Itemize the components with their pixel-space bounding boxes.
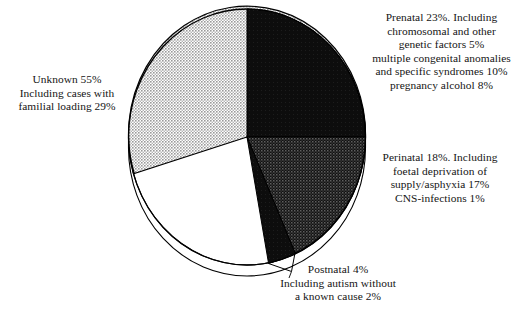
callout-label-prenatal: Prenatal 23%. Including chromosomal and … <box>366 11 517 93</box>
callout-label-unknown: Unknown 55% Including cases with familia… <box>2 73 132 114</box>
callout-label-perinatal: Perinatal 18%. Including foetal deprivat… <box>366 151 514 205</box>
pie-slice-prenatal <box>247 9 366 137</box>
callout-label-postnatal: Postnatal 4% Including autism without a … <box>268 263 408 304</box>
pie-chart-figure: Prenatal 23%. Including chromosomal and … <box>0 0 517 311</box>
